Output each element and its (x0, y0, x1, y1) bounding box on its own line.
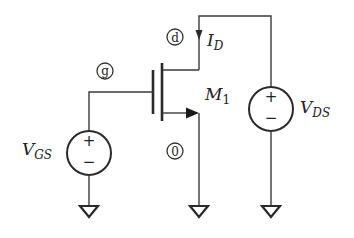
svg-text:0: 0 (171, 145, 179, 159)
current-arrow-icon (196, 30, 203, 40)
vds-label: VDS (300, 97, 330, 120)
svg-text:−: − (83, 153, 96, 171)
svg-text:d: d (171, 31, 179, 45)
vgs-source: + − (67, 131, 111, 175)
ground-icon (190, 206, 208, 217)
svg-text:g: g (101, 64, 109, 78)
nmos-bias-circuit: ID d M1 g 0 + − VGS + − (0, 0, 354, 238)
drain-node-marker: d (167, 29, 183, 45)
source-arrow-icon (186, 108, 199, 119)
svg-text:+: + (83, 132, 96, 150)
gate-node-marker: g (97, 63, 113, 79)
ground-icon (80, 206, 98, 217)
svg-text:+: + (265, 88, 278, 106)
drain-wire (199, 16, 271, 87)
transistor-m1 (153, 63, 199, 121)
vgs-label: VGS (22, 139, 52, 162)
current-label: ID (206, 30, 224, 53)
transistor-label: M1 (204, 84, 230, 107)
vds-source: + − (249, 87, 293, 131)
ground-icon (262, 206, 280, 217)
svg-text:−: − (265, 109, 278, 127)
gate-wire (89, 92, 153, 131)
source-node-marker: 0 (167, 143, 183, 159)
